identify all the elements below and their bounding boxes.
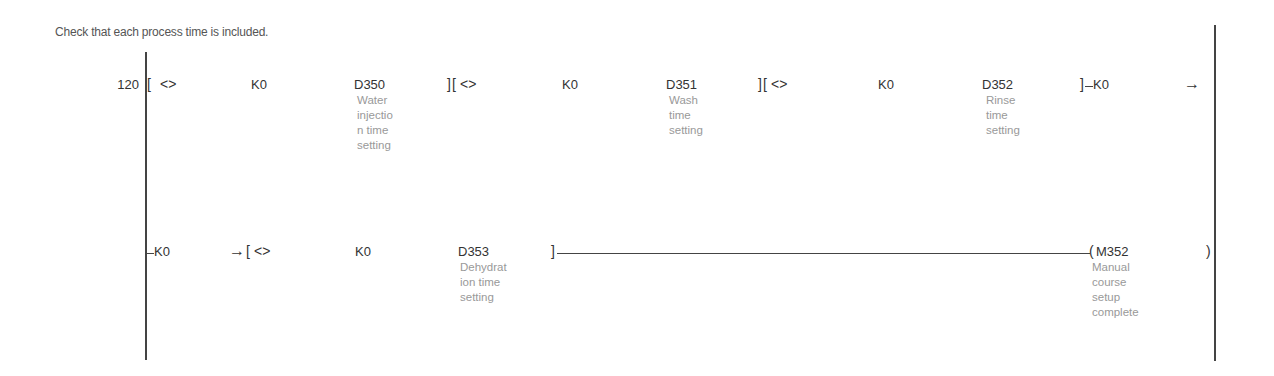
not-equal-operator: <> [160, 76, 176, 92]
statement-comment: Check that each process time is included… [55, 25, 268, 39]
operand-1: K0 [562, 77, 578, 92]
device-d353[interactable]: D353 [458, 244, 489, 259]
continuation-arrow-icon: → [229, 242, 245, 260]
operand-1: K0 [878, 77, 894, 92]
step-number: 120 [99, 77, 139, 92]
bracket-open-icon: [ [147, 76, 151, 92]
lead-operand: K0 [154, 244, 170, 259]
device-comment-d351: Wash time setting [669, 93, 739, 138]
device-comment-d350: Water injectio n time setting [357, 93, 427, 153]
bracket-open-icon: [ [246, 243, 250, 259]
operand-1: K0 [355, 244, 371, 259]
bracket-close-icon: ] [758, 76, 762, 92]
coil-close-icon: ) [1206, 243, 1211, 259]
wire-horizontal [557, 253, 1090, 254]
left-power-rail [145, 52, 147, 360]
tail-operand: K0 [1093, 77, 1109, 92]
device-comment-d352: Rinse time setting [986, 93, 1056, 138]
device-m352[interactable]: M352 [1096, 244, 1129, 259]
device-comment-m352: Manual course setup complete [1092, 260, 1162, 320]
not-equal-operator: <> [254, 243, 270, 259]
bracket-close-icon: ] [551, 243, 555, 259]
not-equal-operator: <> [460, 76, 476, 92]
device-d352[interactable]: D352 [982, 77, 1013, 92]
device-comment-d353: Dehydrat ion time setting [460, 260, 530, 305]
not-equal-operator: <> [771, 76, 787, 92]
bracket-open-icon: [ [452, 76, 456, 92]
device-d350[interactable]: D350 [354, 77, 385, 92]
bracket-close-icon: ] [1080, 76, 1084, 92]
bracket-close-icon: ] [447, 76, 451, 92]
device-d351[interactable]: D351 [666, 77, 697, 92]
wire-segment [146, 253, 154, 254]
operand-1: K0 [251, 77, 267, 92]
continuation-arrow-icon: → [1184, 75, 1200, 93]
bracket-open-icon: [ [763, 76, 767, 92]
coil-open-icon: ( [1089, 243, 1094, 259]
wire-segment [1085, 86, 1093, 87]
right-power-rail [1214, 25, 1216, 361]
